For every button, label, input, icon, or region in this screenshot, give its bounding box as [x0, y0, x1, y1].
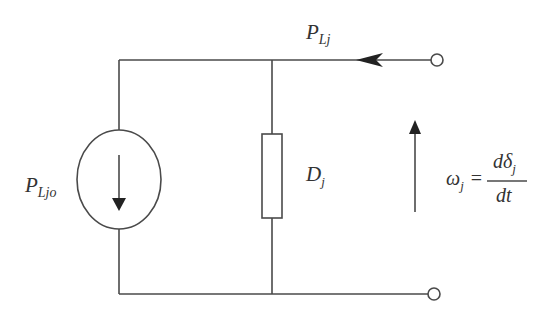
label-d-j-sub: j: [321, 174, 325, 189]
label-p-lj: PLj: [306, 20, 331, 45]
source-arrow-head-icon: [112, 198, 126, 211]
label-p-lj-sub: Lj: [319, 32, 331, 47]
label-p-ljo-main: P: [25, 173, 38, 197]
label-p-ljo: PLjo: [25, 173, 57, 198]
label-p-ljo-sub: Ljo: [38, 185, 57, 200]
label-d-j: Dj: [306, 162, 325, 187]
equation-denominator: dt: [496, 184, 512, 207]
frequency-arrow-head-icon: [409, 120, 421, 134]
equation-lhs: ωj =: [446, 167, 482, 190]
equation-numerator: dδj: [493, 150, 516, 173]
label-p-lj-main: P: [306, 20, 319, 44]
circuit-diagram: [0, 0, 552, 318]
equation-omega-sub: j: [460, 178, 464, 193]
equation-numerator-sub: j: [512, 161, 516, 176]
terminal-bottom: [428, 288, 440, 300]
terminal-top: [431, 54, 443, 66]
resistor: [262, 134, 282, 218]
label-d-j-main: D: [306, 162, 321, 186]
equation-equals: =: [471, 167, 482, 189]
equation-omega: ω: [446, 167, 460, 189]
equation-numerator-main: dδ: [493, 150, 512, 172]
